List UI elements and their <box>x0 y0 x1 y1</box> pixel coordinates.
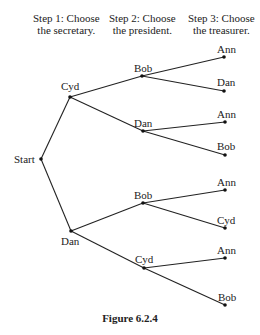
label-leaf-2: Dan <box>217 76 235 88</box>
edge-bob2-cyd <box>143 203 225 228</box>
leaf-5 <box>223 188 227 192</box>
label-start: Start <box>14 153 35 165</box>
edge-start-cyd <box>41 97 70 159</box>
label-level2-dan: Dan <box>134 117 152 129</box>
figure-caption: Figure 6.2.4 <box>0 312 260 324</box>
node-cyd-2 <box>142 266 146 270</box>
label-leaf-4: Bob <box>217 140 235 152</box>
edge-bob2-ann <box>143 190 225 203</box>
label-leaf-3: Ann <box>217 108 236 120</box>
label-leaf-8: Bob <box>218 291 236 303</box>
edge-dan-ann <box>143 122 225 131</box>
edge-start-dan <box>41 159 71 231</box>
node-dan-2 <box>141 129 145 133</box>
label-level2-bob-2: Bob <box>134 189 152 201</box>
label-leaf-7: Ann <box>217 244 236 256</box>
leaf-4 <box>223 153 227 157</box>
edge-cyd2-ann <box>144 258 225 268</box>
label-leaf-6: Cyd <box>217 214 235 226</box>
edge-dan-bob <box>71 203 143 231</box>
edge-cyd-bob <box>70 76 142 97</box>
edge-bob-dan <box>142 76 224 91</box>
leaf-6 <box>223 226 227 230</box>
label-leaf-5: Ann <box>217 176 236 188</box>
node-bob-2 <box>141 201 145 205</box>
leaf-1 <box>222 55 226 59</box>
label-level2-cyd: Cyd <box>135 253 153 265</box>
label-level2-bob-1: Bob <box>134 62 152 74</box>
edge-bob-ann <box>142 57 224 76</box>
label-level1-cyd: Cyd <box>61 80 79 92</box>
leaf-7 <box>223 256 227 260</box>
node-cyd <box>68 95 72 99</box>
label-leaf-1: Ann <box>217 43 236 55</box>
edge-dan-cyd <box>71 231 144 268</box>
edge-cyd2-bob <box>144 268 225 305</box>
node-dan <box>69 229 73 233</box>
leaf-8 <box>223 303 227 307</box>
leaf-2 <box>222 89 226 93</box>
edge-dan-bob-leaf <box>143 131 225 155</box>
node-start <box>39 157 43 161</box>
node-bob-1 <box>140 74 144 78</box>
edge-cyd-dan <box>70 97 143 131</box>
leaf-3 <box>223 120 227 124</box>
label-level1-dan: Dan <box>61 235 79 247</box>
